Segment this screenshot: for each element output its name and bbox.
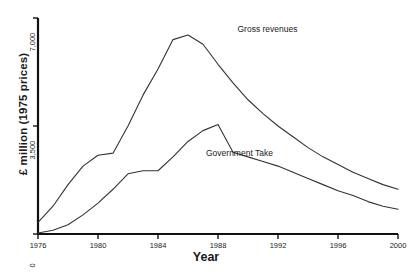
x-tick-label: 1996 [318, 241, 358, 250]
x-tick-label: 1988 [198, 241, 238, 250]
x-tick-label: 1976 [18, 241, 58, 250]
plot-area [0, 0, 412, 276]
government-take-label: Government Take [206, 148, 273, 158]
y-tick-label: 0 [28, 234, 37, 268]
series-line-1 [38, 35, 398, 222]
series-line-2 [38, 124, 398, 233]
x-tick-label: 2000 [378, 241, 412, 250]
x-tick-label: 1992 [258, 241, 298, 250]
gross-revenues-label: Gross revenues [238, 24, 298, 34]
x-tick-label: 1984 [138, 241, 178, 250]
y-axis-title: £ million (1975 prices) [17, 29, 29, 199]
x-tick-label: 1980 [78, 241, 118, 250]
chart-container: £ million (1975 prices) Year 19761980198… [0, 0, 412, 276]
x-axis-title: Year [0, 250, 412, 264]
y-tick-label: 3,500 [28, 126, 37, 160]
y-tick-label: 7,000 [28, 18, 37, 52]
